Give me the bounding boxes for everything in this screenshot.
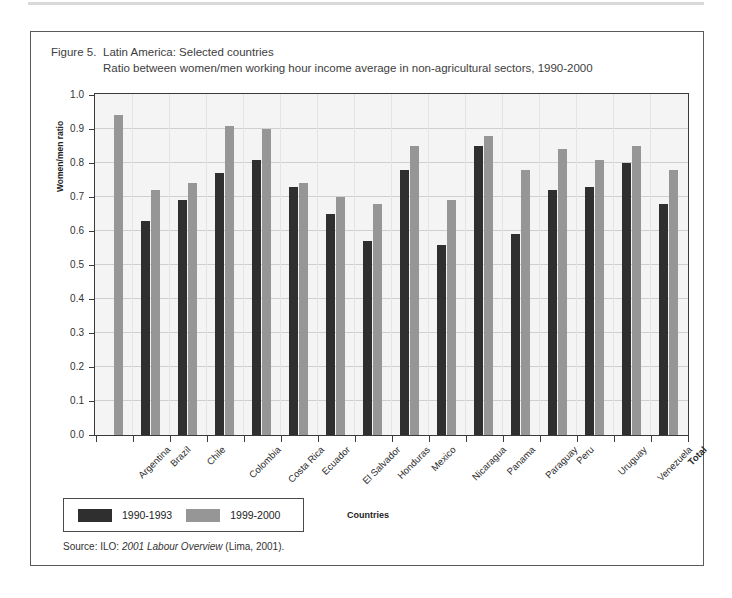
y-tick-label: 0.8: [54, 157, 84, 168]
source-suffix: (Lima, 2001).: [223, 541, 285, 552]
bar-chile-1990-1993: [178, 200, 187, 435]
legend-swatch-icon-dark: [78, 509, 112, 522]
x-axis-label-argentina: Argentina: [135, 444, 172, 481]
x-tick-mark: [96, 436, 97, 442]
x-tick-mark: [355, 436, 356, 442]
y-tick-mark: [89, 367, 94, 368]
legend-swatch-icon-light: [186, 509, 220, 522]
y-tick-label: 0.9: [54, 123, 84, 134]
x-axis-label-panama: Panama: [504, 444, 537, 477]
plot-area: [94, 93, 689, 436]
bar-nicaragua-1990-1993: [437, 245, 446, 435]
x-tick-mark: [318, 436, 319, 442]
page-top-rule: [28, 2, 704, 5]
y-tick-mark: [89, 197, 94, 198]
y-tick-mark: [89, 435, 94, 436]
x-tick-mark: [614, 436, 615, 442]
bar-colombia-1990-1993: [215, 173, 224, 435]
x-axis-label-chile: Chile: [204, 444, 227, 467]
bar-panama-1990-1993: [474, 146, 483, 435]
bar-peru-1999-2000: [558, 149, 567, 435]
x-axis-label-nicaragua: Nicaragua: [469, 444, 507, 482]
x-tick-mark: [577, 436, 578, 442]
bar-honduras-1999-2000: [373, 204, 382, 435]
bar-paraguay-1999-2000: [521, 170, 530, 435]
x-tick-mark: [688, 436, 689, 442]
x-axis-label-colombia: Colombia: [246, 444, 282, 480]
x-tick-mark: [170, 436, 171, 442]
bar-costa-rica-1999-2000: [262, 129, 271, 435]
bar-total-1999-2000: [669, 170, 678, 435]
y-tick-label: 0.7: [54, 191, 84, 202]
x-tick-mark: [281, 436, 282, 442]
legend: 1990-1993 1999-2000: [63, 498, 304, 532]
x-tick-mark: [207, 436, 208, 442]
y-tick-mark: [89, 401, 94, 402]
y-tick-mark: [89, 265, 94, 266]
x-tick-mark: [466, 436, 467, 442]
legend-item-1999-2000: 1999-2000: [186, 509, 280, 522]
x-axis-label-uruguay: Uruguay: [615, 444, 648, 477]
bar-ecuador-1990-1993: [289, 187, 298, 435]
x-tick-mark: [429, 436, 430, 442]
y-tick-mark: [89, 163, 94, 164]
y-tick-label: 0.5: [54, 259, 84, 270]
x-axis-label-costa-rica: Costa Rica: [285, 444, 326, 485]
legend-label-1999-2000: 1999-2000: [230, 509, 280, 521]
x-axis-label-brazil: Brazil: [167, 444, 192, 469]
bar-mexico-1990-1993: [400, 170, 409, 435]
bar-costa-rica-1990-1993: [252, 160, 261, 435]
y-tick-label: 0.2: [54, 361, 84, 372]
x-axis-label-venezuela: Venezuela: [654, 444, 693, 483]
y-tick-mark: [89, 333, 94, 334]
y-tick-label: 0.1: [54, 395, 84, 406]
bar-el-salvador-1990-1993: [326, 214, 335, 435]
bars-layer: [95, 94, 688, 435]
bar-peru-1990-1993: [548, 190, 557, 435]
x-axis-label-paraguay: Paraguay: [542, 444, 579, 481]
y-tick-label: 1.0: [54, 89, 84, 100]
bar-uruguay-1999-2000: [595, 160, 604, 435]
source-note: Source: ILO: 2001 Labour Overview (Lima,…: [63, 541, 284, 552]
bar-argentina-1999-2000: [114, 115, 123, 435]
x-tick-mark: [244, 436, 245, 442]
x-tick-mark: [133, 436, 134, 442]
x-axis-label-el-salvador: El Salvador: [360, 444, 402, 486]
bar-ecuador-1999-2000: [299, 183, 308, 435]
x-tick-mark: [392, 436, 393, 442]
chart: Women/men ratio 0.00.10.20.30.40.50.60.7…: [31, 32, 705, 567]
bar-total-1990-1993: [659, 204, 668, 435]
x-tick-mark: [503, 436, 504, 442]
figure-frame: Figure 5.Latin America: Selected countri…: [30, 31, 704, 566]
y-tick-mark: [89, 299, 94, 300]
bar-brazil-1990-1993: [141, 221, 150, 435]
source-title: 2001 Labour Overview: [122, 541, 223, 552]
legend-item-1990-1993: 1990-1993: [78, 509, 172, 522]
bar-venezuela-1990-1993: [622, 163, 631, 435]
legend-label-1990-1993: 1990-1993: [122, 509, 172, 521]
y-tick-label: 0.3: [54, 327, 84, 338]
y-tick-mark: [89, 231, 94, 232]
y-tick-label: 0.0: [54, 429, 84, 440]
bar-venezuela-1999-2000: [632, 146, 641, 435]
bar-mexico-1999-2000: [410, 146, 419, 435]
y-tick-label: 0.4: [54, 293, 84, 304]
bar-paraguay-1990-1993: [511, 234, 520, 435]
y-tick-mark: [89, 95, 94, 96]
y-tick-mark: [89, 129, 94, 130]
x-tick-mark: [540, 436, 541, 442]
x-tick-mark: [651, 436, 652, 442]
bar-chile-1999-2000: [188, 183, 197, 435]
bar-colombia-1999-2000: [225, 126, 234, 435]
bar-panama-1999-2000: [484, 136, 493, 435]
source-prefix: Source: ILO:: [63, 541, 122, 552]
bar-el-salvador-1999-2000: [336, 197, 345, 435]
x-axis-label-peru: Peru: [573, 444, 595, 466]
y-tick-label: 0.6: [54, 225, 84, 236]
bar-honduras-1990-1993: [363, 241, 372, 435]
bar-brazil-1999-2000: [151, 190, 160, 435]
bar-nicaragua-1999-2000: [447, 200, 456, 435]
bar-uruguay-1990-1993: [585, 187, 594, 435]
x-axis-label-mexico: Mexico: [428, 444, 457, 473]
